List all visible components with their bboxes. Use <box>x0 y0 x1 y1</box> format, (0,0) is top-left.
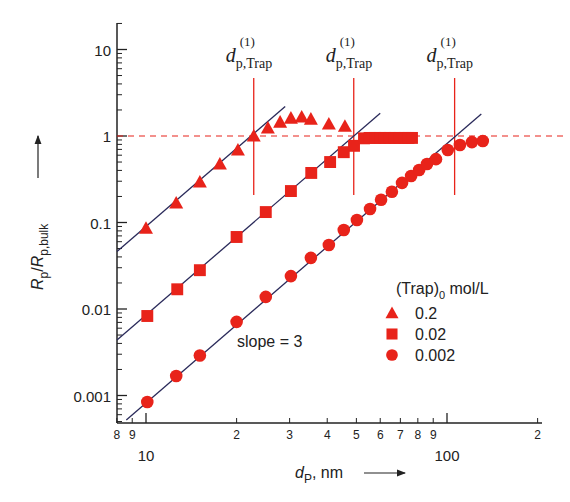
legend: (Trap)0 mol/L0.20.020.002 <box>386 280 489 364</box>
data-point-circle <box>430 153 443 166</box>
data-point-square <box>231 231 243 243</box>
data-point-circle <box>141 396 154 409</box>
trap-diameter-superscript: (1) <box>340 34 355 49</box>
data-point-square <box>338 146 350 158</box>
y-tick-label: 0.1 <box>90 215 111 232</box>
x-axis-title: dP, nm <box>295 464 343 486</box>
x-tick-label-minor: 9 <box>430 428 437 442</box>
data-point-triangle <box>261 121 275 134</box>
legend-marker-square <box>386 328 397 339</box>
trap-diameter-superscript: (1) <box>441 34 456 49</box>
x-tick-label-minor: 7 <box>397 428 404 442</box>
legend-title: (Trap)0 mol/L <box>396 280 489 301</box>
data-point-circle <box>305 252 318 265</box>
data-point-triangle <box>231 143 245 156</box>
data-point-square <box>260 206 272 218</box>
y-tick-label: 10 <box>94 42 111 59</box>
data-point-triangle <box>322 117 336 130</box>
reference-lines: dp,Trap(1)dp,Trap(1)dp,Trap(1) <box>117 34 566 195</box>
x-tick-label-minor: 8 <box>414 428 421 442</box>
data-point-circle <box>441 144 454 157</box>
slope-annotation: slope = 3 <box>237 333 302 350</box>
data-point-circle <box>454 139 467 152</box>
chart-svg: 1010.10.010.0011010089234567892 dp,Trap(… <box>0 0 570 502</box>
data-point-triangle <box>338 119 352 132</box>
y-tick-label: 1 <box>103 128 111 145</box>
data-point-circle <box>375 193 388 206</box>
legend-marker-triangle <box>386 307 399 319</box>
x-tick-label-minor: 5 <box>353 428 360 442</box>
data-point-circle <box>285 270 298 283</box>
y-tick-label: 0.001 <box>73 388 111 405</box>
data-point-triangle <box>247 129 261 142</box>
data-point-circle <box>259 291 272 304</box>
data-point-circle <box>230 316 243 329</box>
x-tick-label-major: 10 <box>138 447 155 464</box>
data-point-triangle <box>169 196 183 209</box>
data-point-circle <box>386 185 399 198</box>
x-tick-label-minor: 4 <box>324 428 331 442</box>
legend-label: 0.2 <box>415 305 437 322</box>
x-tick-label-minor: 2 <box>233 428 240 442</box>
data-point-circle <box>170 370 183 383</box>
data-point-circle <box>466 136 479 149</box>
x-tick-label-major: 100 <box>434 447 459 464</box>
data-point-square <box>194 264 206 276</box>
data-point-circle <box>323 239 336 252</box>
data-point-triangle <box>273 115 287 128</box>
data-point-triangle <box>193 175 207 188</box>
data-point-square <box>305 167 317 179</box>
x-tick-label-minor: 8 <box>113 428 120 442</box>
trap-diameter-superscript: (1) <box>240 34 255 49</box>
y-tick-label: 0.01 <box>82 301 111 318</box>
data-point-circle <box>351 214 364 227</box>
x-tick-label-minor: 9 <box>129 428 136 442</box>
data-point-square <box>171 283 183 295</box>
data-point-square <box>324 156 336 168</box>
data-point-circle <box>364 203 377 216</box>
data-point-circle <box>194 349 207 362</box>
legend-marker-circle <box>386 349 398 361</box>
data-point-square <box>141 310 153 322</box>
legend-label: 0.002 <box>415 347 455 364</box>
data-point-circle <box>476 135 489 148</box>
x-tick-label-minor: 6 <box>377 428 384 442</box>
data-point-square <box>285 185 297 197</box>
data-point-circle <box>337 224 350 237</box>
data-point-square <box>406 132 418 144</box>
legend-label: 0.02 <box>415 326 446 343</box>
x-tick-label-minor: 2 <box>534 428 541 442</box>
x-tick-label-minor: 3 <box>286 428 293 442</box>
y-axis-title: Rp/Rp,bulk <box>29 223 51 290</box>
